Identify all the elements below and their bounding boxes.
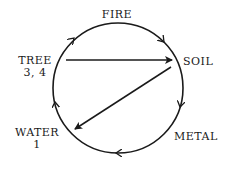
arrow-soil-to-water <box>75 67 171 129</box>
label-soil: SOIL <box>183 55 213 68</box>
cycle-circle <box>53 23 183 153</box>
label-metal: METAL <box>174 130 218 143</box>
label-tree-sub: 3, 4 <box>24 66 47 79</box>
label-water-sub: 1 <box>33 138 41 151</box>
five-elements-diagram: FIRE SOIL METAL WATER 1 TREE 3, 4 <box>0 0 230 173</box>
label-fire: FIRE <box>102 8 132 21</box>
